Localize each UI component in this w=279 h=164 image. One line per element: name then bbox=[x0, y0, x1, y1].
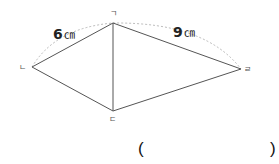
answer-close-paren: ) bbox=[270, 139, 276, 159]
edge-nieun-digeut bbox=[32, 67, 113, 111]
answer-open-paren: ( bbox=[138, 139, 144, 159]
vertex-label-nieun: ㄴ bbox=[19, 63, 26, 72]
vertex-label-rieul: ㄹ bbox=[244, 65, 251, 74]
measurement-6cm: 6㎝ bbox=[53, 26, 75, 42]
measurement-9cm: 9㎝ bbox=[173, 24, 195, 40]
vertex-label-giyeok: ㄱ bbox=[110, 9, 117, 18]
edge-digeut-rieul bbox=[113, 69, 241, 111]
vertex-label-digeut: ㄷ bbox=[109, 115, 116, 124]
answer-blank[interactable] bbox=[150, 140, 265, 160]
